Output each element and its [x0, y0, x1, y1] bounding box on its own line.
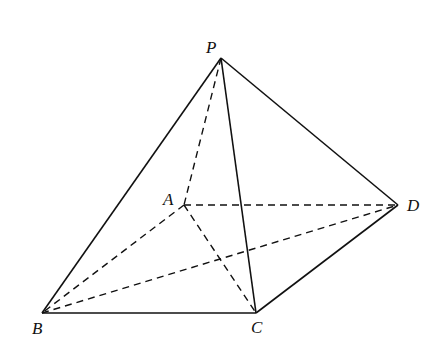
edge-PC — [221, 58, 256, 313]
label-P: P — [205, 38, 216, 57]
label-D: D — [406, 196, 420, 215]
edge-AB — [42, 205, 184, 313]
edge-CD — [256, 205, 398, 313]
edge-PB — [42, 58, 221, 313]
dashed-edges — [42, 58, 398, 313]
solid-edges — [42, 58, 398, 313]
edge-PA — [184, 58, 221, 205]
edge-PD — [221, 58, 398, 205]
pyramid-diagram: P A B C D — [0, 0, 448, 358]
edge-BD — [42, 205, 398, 313]
label-C: C — [251, 318, 263, 337]
label-A: A — [162, 190, 174, 209]
label-B: B — [32, 319, 43, 338]
